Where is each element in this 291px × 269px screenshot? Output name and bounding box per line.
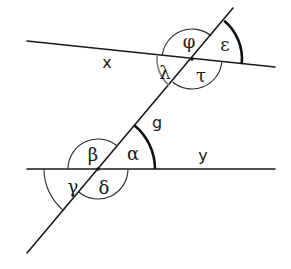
label-angle-beta: β <box>88 144 98 165</box>
arc-gamma <box>44 169 63 210</box>
label-angle-phi: φ <box>183 31 196 52</box>
label-line-y: y <box>198 146 207 165</box>
label-transversal-g: g <box>152 113 162 132</box>
intersection-lower <box>96 167 100 171</box>
label-angle-lambda: λ <box>159 62 170 83</box>
geometry-diagram: x y g φ ε λ τ β α γ δ <box>0 0 291 269</box>
line-x <box>27 41 275 67</box>
intersection-upper <box>190 57 194 61</box>
label-angle-alpha: α <box>127 143 139 164</box>
label-line-x: x <box>102 53 111 72</box>
label-angle-epsilon: ε <box>220 34 229 55</box>
label-angle-delta: δ <box>99 177 110 198</box>
label-angle-tau: τ <box>196 65 206 86</box>
label-angle-gamma: γ <box>68 176 79 197</box>
